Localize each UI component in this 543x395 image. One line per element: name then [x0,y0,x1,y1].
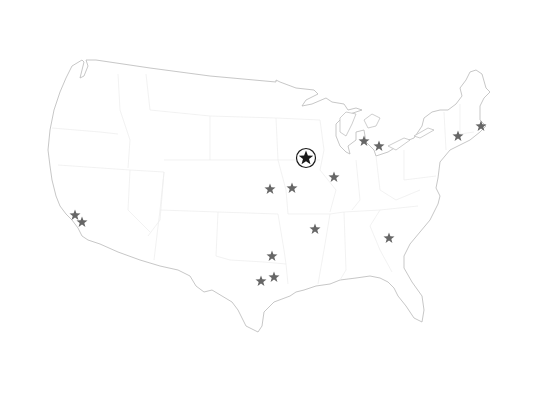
headquarters-marker[interactable] [295,147,317,169]
star-icon [286,182,298,194]
circled-star-icon [295,147,317,169]
location-marker[interactable] [452,130,464,142]
star-icon [266,250,278,262]
location-marker[interactable] [309,223,321,235]
star-icon [255,275,267,287]
location-marker[interactable] [76,216,88,228]
location-marker[interactable] [475,120,487,132]
star-icon [452,130,464,142]
location-marker[interactable] [255,275,267,287]
us-map [0,0,543,395]
location-marker[interactable] [266,250,278,262]
star-icon [475,120,487,132]
location-marker[interactable] [358,135,370,147]
location-marker[interactable] [286,182,298,194]
star-icon [268,271,280,283]
star-icon [358,135,370,147]
location-marker[interactable] [373,140,385,152]
star-icon [383,232,395,244]
us-outline [0,0,543,395]
location-marker[interactable] [268,271,280,283]
star-icon [328,171,340,183]
star-icon [373,140,385,152]
star-icon [264,183,276,195]
star-icon [76,216,88,228]
location-marker[interactable] [383,232,395,244]
location-marker[interactable] [264,183,276,195]
location-marker[interactable] [328,171,340,183]
star-icon [309,223,321,235]
